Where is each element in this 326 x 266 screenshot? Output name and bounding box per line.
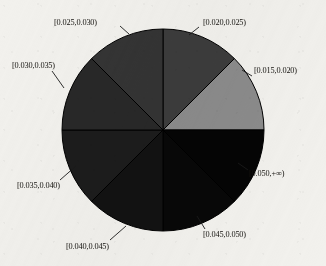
leader-line (110, 226, 126, 240)
pie-chart-svg (0, 0, 326, 266)
pie-slice-label: [0.030,0.035) (12, 62, 55, 70)
pie-slice-label: [0.045,0.050) (203, 231, 246, 239)
pie-slice-label: [0.025,0.030) (54, 19, 97, 27)
pie-slice-label: [0.035,0.040) (17, 182, 60, 190)
pie-chart-figure: [0.020,0.025)[0.015,0.020)[0.050,+∞)[0.0… (0, 0, 326, 266)
pie-slices-group (62, 29, 264, 231)
leader-line (52, 71, 64, 88)
leader-line (120, 26, 129, 34)
pie-slice-label: [0.040,0.045) (66, 243, 109, 251)
pie-slice-label: [0.050,+∞) (249, 170, 284, 178)
pie-slice-label: [0.020,0.025) (203, 19, 246, 27)
pie-slice-label: [0.015,0.020) (254, 67, 297, 75)
